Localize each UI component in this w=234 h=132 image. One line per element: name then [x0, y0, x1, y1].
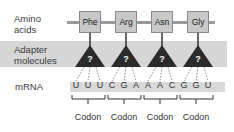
adapter-unknown-4: ? [194, 54, 202, 64]
pairing-dotted-lines [76, 67, 208, 81]
codon-label-3: Codon [142, 112, 178, 122]
adapter-unknown-2: ? [122, 54, 130, 64]
mrna-base: A [143, 80, 153, 90]
mrna-base: U [83, 80, 93, 90]
codon-label-4: Codon [178, 112, 214, 122]
adapter-triangles [75, 45, 213, 67]
mrna-base: U [95, 80, 105, 90]
mrna-base: U [71, 80, 81, 90]
mrna-base: C [107, 80, 117, 90]
mrna-base: A [131, 80, 141, 90]
adapter-unknown-1: ? [86, 54, 94, 64]
mrna-base: G [191, 80, 201, 90]
amino-acid-asn: Asn [151, 11, 173, 33]
mrna-base: U [203, 80, 213, 90]
amino-acid-gly: Gly [187, 11, 209, 33]
mrna-base: A [155, 80, 165, 90]
adapter-unknown-3: ? [158, 54, 166, 64]
mrna-base: C [167, 80, 177, 90]
codon-brackets [72, 95, 213, 104]
codon-label-2: Codon [106, 112, 142, 122]
mrna-base: G [119, 80, 129, 90]
mrna-base: G [179, 80, 189, 90]
amino-acid-phe: Phe [79, 11, 101, 33]
codon-label-1: Codon [70, 112, 106, 122]
amino-acid-arg: Arg [115, 11, 137, 33]
adapter-stems [90, 33, 198, 46]
